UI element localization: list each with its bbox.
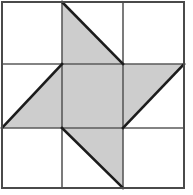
quilt-block-canvas: [0, 0, 193, 195]
patch-center-square: [62, 64, 123, 128]
quilt-block-figure: Pinwheel Star Quilt Block: [0, 0, 193, 195]
